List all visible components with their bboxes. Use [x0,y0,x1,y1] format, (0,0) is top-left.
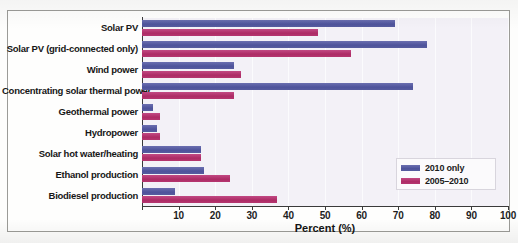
category-label-4: Geothermal power [2,106,138,117]
category-label-8: Biodiesel production [2,190,138,201]
category-label-0: Solar PV [2,22,138,33]
legend-label-1: 2005–2010 [425,176,468,186]
x-tick-label-20: 20 [200,210,230,221]
bar-0-7 [142,167,204,174]
bar-0-6 [142,146,201,153]
bar-1-7 [142,175,230,182]
legend-item-2005-2010: 2005–2010 [401,175,491,187]
bar-0-5 [142,125,157,132]
legend-label-0: 2010 only [425,163,464,173]
x-tick-label-30: 30 [237,210,267,221]
chart-legend: 2010 only 2005–2010 [396,158,496,190]
bar-0-8 [142,188,175,195]
bar-0-2 [142,62,234,69]
bar-1-2 [142,71,241,78]
category-label-7: Ethanol production [2,169,138,180]
x-tick-label-40: 40 [273,210,303,221]
x-tick-label-70: 70 [383,210,413,221]
x-tick-label-80: 80 [420,210,450,221]
x-tick-label-90: 90 [456,210,486,221]
x-tick-label-60: 60 [347,210,377,221]
category-label-3: Concentrating solar thermal power [2,85,138,96]
bar-0-0 [142,20,395,27]
bar-1-4 [142,113,160,120]
x-tick-0 [142,206,143,210]
chart-figure: 102030405060708090100 Percent (%) Solar … [0,0,518,243]
category-labels: Solar PVSolar PV (grid-connected only)Wi… [0,0,138,243]
bar-1-3 [142,92,234,99]
bar-0-3 [142,83,413,90]
legend-swatch-blue [401,165,420,171]
bar-1-6 [142,154,201,161]
bar-0-1 [142,41,427,48]
category-label-1: Solar PV (grid-connected only) [2,43,138,54]
bar-1-1 [142,50,351,57]
x-axis-title: Percent (%) [142,222,508,234]
legend-item-2010-only: 2010 only [401,162,491,174]
legend-swatch-pink [401,178,420,184]
bar-1-5 [142,133,160,140]
x-tick-label-100: 100 [493,210,518,221]
category-label-5: Hydropower [2,127,138,138]
x-tick-label-10: 10 [164,210,194,221]
category-label-2: Wind power [2,64,138,75]
category-label-6: Solar hot water/heating [2,148,138,159]
gridline-100 [508,18,509,206]
bar-1-0 [142,29,318,36]
bar-0-4 [142,104,153,111]
x-tick-label-50: 50 [310,210,340,221]
bar-1-8 [142,196,277,203]
